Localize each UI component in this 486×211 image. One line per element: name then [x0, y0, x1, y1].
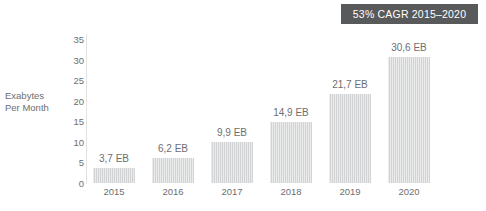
bar-value-label: 21,7 EB	[332, 80, 368, 90]
y-axis-tick: 25	[73, 76, 84, 86]
bar-series: 3,7 EB6,2 EB9,9 EB14,9 EB21,7 EB30,6 EB	[88, 30, 378, 183]
bar-slot: 30,6 EB	[388, 30, 430, 183]
x-axis-tick: 2019	[329, 187, 371, 197]
bar-slot: 21,7 EB	[329, 30, 371, 183]
y-axis: 35302520151050	[60, 30, 84, 183]
bar[interactable]	[152, 158, 194, 184]
chart-container: 53% CAGR 2015–2020 Exabytes Per Month 35…	[0, 0, 486, 211]
y-axis-line	[86, 34, 87, 184]
plot-area: 35302520151050 3,7 EB6,2 EB9,9 EB14,9 EB…	[88, 30, 378, 190]
bar-value-label: 14,9 EB	[273, 108, 309, 118]
y-axis-tick: 30	[73, 56, 84, 66]
bar-value-label: 6,2 EB	[158, 144, 188, 154]
x-axis-tick: 2017	[211, 187, 253, 197]
x-axis-tick: 2015	[93, 187, 135, 197]
bar[interactable]	[388, 57, 430, 183]
y-axis-tick: 20	[73, 97, 84, 107]
bar-slot: 6,2 EB	[152, 30, 194, 183]
bar-value-label: 30,6 EB	[391, 43, 427, 53]
y-axis-tick: 10	[73, 138, 84, 148]
y-axis-tick: 5	[79, 158, 84, 168]
bar[interactable]	[329, 94, 371, 183]
bar[interactable]	[211, 142, 253, 183]
bar-slot: 3,7 EB	[93, 30, 135, 183]
y-axis-tick: 15	[73, 117, 84, 127]
x-axis-tick: 2016	[152, 187, 194, 197]
bar[interactable]	[270, 122, 312, 183]
x-axis: 201520162017201820192020	[88, 187, 378, 201]
y-axis-tick: 0	[79, 179, 84, 189]
y-axis-tick: 35	[73, 35, 84, 45]
x-axis-tick: 2018	[270, 187, 312, 197]
cagr-badge: 53% CAGR 2015–2020	[341, 4, 478, 24]
bar[interactable]	[93, 168, 135, 183]
bar-value-label: 3,7 EB	[99, 154, 129, 164]
bar-value-label: 9,9 EB	[217, 128, 247, 138]
bar-slot: 14,9 EB	[270, 30, 312, 183]
bar-slot: 9,9 EB	[211, 30, 253, 183]
x-axis-tick: 2020	[388, 187, 430, 197]
